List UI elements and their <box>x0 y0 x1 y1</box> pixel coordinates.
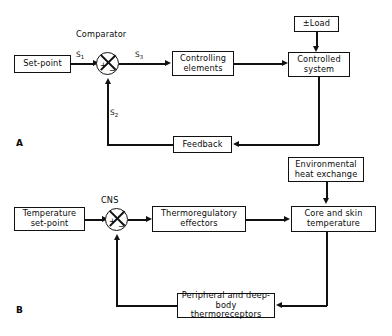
panel-label-a: A <box>16 138 23 148</box>
block-thermoregulatory-effectors-b: Thermoregulatory effectors <box>152 206 246 232</box>
cns-title-b: CNS <box>101 196 119 205</box>
line-controlled-down-a <box>318 77 320 145</box>
signal-label-s1-a: S1 <box>76 50 84 59</box>
block-feedback-a: Feedback <box>173 136 232 153</box>
arrowhead-feedback-to-comparator-a <box>105 78 111 84</box>
block-controlled-system-a: Controlled system <box>288 52 350 77</box>
line-controlled-to-feedback-a <box>238 144 319 146</box>
block-thermoreceptors-b: Peripheral and deep-body thermoreceptors <box>177 293 275 318</box>
line-core-to-thermoreceptors-b <box>281 305 327 307</box>
signal-label-s2-a: S2 <box>110 108 118 117</box>
junction-plus-sign-a: + <box>100 62 107 70</box>
line-effectors-to-core-b <box>246 219 286 221</box>
figure-canvas: Comparator Set-point S1 + − S3 Controlli… <box>0 0 392 336</box>
block-environmental-heat-exchange-b: Environmental heat exchange <box>288 157 364 182</box>
block-core-skin-temperature-b: Core and skin temperature <box>291 206 376 232</box>
block-load-a: ±Load <box>294 16 339 32</box>
line-thermoreceptors-up-b <box>116 240 118 306</box>
line-comparator-to-controlling-a <box>119 63 167 65</box>
block-temperature-set-point-b: Temperature set-point <box>14 207 85 231</box>
line-feedback-left-a <box>107 144 174 146</box>
block-controlling-elements-a: Controlling elements <box>172 51 234 76</box>
line-thermoreceptors-left-b <box>116 305 178 307</box>
line-controlling-to-controlled-a <box>234 63 284 65</box>
junction-plus-sign-b: + <box>109 218 116 226</box>
arrowhead-comparator-to-controlling-a <box>165 60 171 66</box>
panel-label-b: B <box>16 305 23 315</box>
arrowhead-into-feedback-a <box>233 141 239 147</box>
line-feedback-up-a <box>107 84 109 145</box>
arrowhead-effectors-to-core-b <box>284 216 290 222</box>
line-core-down-b <box>326 232 328 306</box>
arrowhead-thermoreceptors-to-cns-b <box>114 234 120 240</box>
arrowhead-heat-exchange-to-core-b <box>323 198 329 204</box>
block-set-point-a: Set-point <box>14 55 71 73</box>
arrowhead-into-thermoreceptors-b <box>276 302 282 308</box>
comparator-title-a: Comparator <box>76 30 126 39</box>
line-cns-to-effectors-b <box>128 219 148 221</box>
signal-label-s3-a: S3 <box>135 50 143 59</box>
line-setpoint-to-comparator-a <box>71 63 94 65</box>
junction-minus-sign-b: − <box>118 223 125 231</box>
junction-minus-sign-a: − <box>109 67 116 75</box>
